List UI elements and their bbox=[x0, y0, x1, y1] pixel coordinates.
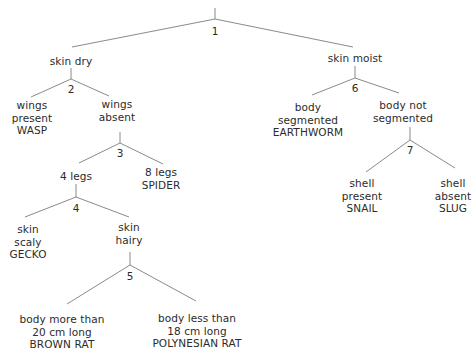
leaf-brown-rat: body more than 20 cm long BROWN RAT bbox=[19, 313, 104, 351]
label-line: body less than bbox=[152, 312, 241, 325]
node-number-2: 2 bbox=[68, 83, 75, 95]
leaf-slug: shell absent SLUG bbox=[435, 177, 471, 215]
organism-name: WASP bbox=[12, 124, 53, 137]
edge-5-polynesian-rat bbox=[130, 265, 196, 301]
edge-2-wings-present bbox=[31, 79, 71, 97]
organism-name: SLUG bbox=[435, 202, 471, 215]
organism-name: POLYNESIAN RAT bbox=[152, 337, 241, 350]
edge-5-brown-rat bbox=[67, 265, 130, 304]
label-body-not-segmented: body not segmented bbox=[373, 99, 433, 124]
leaf-gecko: skin scaly GECKO bbox=[9, 223, 46, 261]
leaf-polynesian-rat: body less than 18 cm long POLYNESIAN RAT bbox=[152, 312, 241, 350]
label-line: body bbox=[273, 101, 344, 114]
label-line: body not bbox=[373, 99, 433, 112]
edge-3-eight-legs bbox=[120, 143, 163, 164]
label-line: skin dry bbox=[50, 55, 92, 68]
node-number-6: 6 bbox=[352, 82, 359, 94]
label-line: absent bbox=[99, 111, 135, 124]
label-wings-absent: wings absent bbox=[99, 98, 135, 123]
label-skin-moist: skin moist bbox=[328, 52, 383, 65]
label-skin-hairy: skin hairy bbox=[115, 221, 142, 246]
label-line: wings bbox=[12, 99, 53, 112]
label-line: segmented bbox=[273, 114, 344, 127]
edge-4-skin-scaly bbox=[25, 197, 76, 217]
edge-2-wings-absent bbox=[71, 79, 109, 96]
organism-name: SNAIL bbox=[342, 202, 383, 215]
label-line: present bbox=[12, 112, 53, 125]
edge-1-skin-moist bbox=[215, 19, 353, 47]
node-number-1: 1 bbox=[212, 25, 219, 37]
label-line: present bbox=[342, 190, 383, 203]
leaf-earthworm: body segmented EARTHWORM bbox=[273, 101, 344, 139]
label-line: shell bbox=[435, 177, 471, 190]
leaf-snail: shell present SNAIL bbox=[342, 177, 383, 215]
node-number-3: 3 bbox=[117, 147, 124, 159]
leaf-wasp: wings present WASP bbox=[12, 99, 53, 137]
label-line: skin bbox=[115, 221, 142, 234]
leaf-spider: 8 legs SPIDER bbox=[142, 166, 181, 191]
label-four-legs: 4 legs bbox=[60, 170, 92, 183]
label-line: 4 legs bbox=[60, 170, 92, 183]
label-line: shell bbox=[342, 177, 383, 190]
edge-4-skin-hairy bbox=[76, 197, 129, 217]
label-line: segmented bbox=[373, 112, 433, 125]
label-skin-dry: skin dry bbox=[50, 55, 92, 68]
label-line: skin bbox=[9, 223, 46, 236]
organism-name: EARTHWORM bbox=[273, 126, 344, 139]
edge-1-skin-dry bbox=[72, 19, 215, 47]
edge-6-earthworm bbox=[312, 78, 355, 95]
edge-7-snail bbox=[366, 140, 410, 172]
label-line: skin moist bbox=[328, 52, 383, 65]
edge-6-body-not-segmented bbox=[355, 78, 399, 93]
node-number-4: 4 bbox=[73, 202, 80, 214]
node-number-7: 7 bbox=[407, 144, 414, 156]
edge-7-slug bbox=[410, 140, 455, 168]
label-line: wings bbox=[99, 98, 135, 111]
label-line: hairy bbox=[115, 234, 142, 247]
label-line: 20 cm long bbox=[19, 326, 104, 339]
organism-name: SPIDER bbox=[142, 179, 181, 192]
node-number-5: 5 bbox=[127, 270, 134, 282]
label-line: body more than bbox=[19, 313, 104, 326]
label-line: 8 legs bbox=[142, 166, 181, 179]
label-line: 18 cm long bbox=[152, 325, 241, 338]
label-line: scaly bbox=[9, 236, 46, 249]
organism-name: BROWN RAT bbox=[19, 338, 104, 351]
organism-name: GECKO bbox=[9, 248, 46, 261]
label-line: absent bbox=[435, 190, 471, 203]
edge-3-four-legs bbox=[79, 143, 120, 163]
